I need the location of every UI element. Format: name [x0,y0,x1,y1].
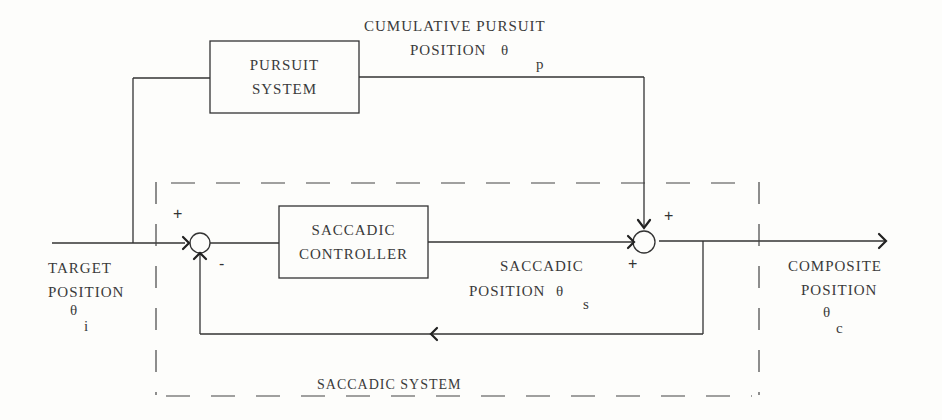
pursuit-system-line1: PURSUIT [210,53,359,77]
theta-p-subscript: p [536,56,544,73]
right-junction-bottom-plus-sign: + [628,255,637,273]
theta-p-symbol: θ [501,42,509,58]
cumulative-pursuit-position: POSITION θ [410,38,509,62]
theta-s-subscript: s [583,296,589,313]
left-summing-junction [190,233,210,253]
target-position-line1: TARGET [48,256,112,280]
saccadic-system-label: SACCADIC SYSTEM [317,373,462,397]
composite-position-line1: COMPOSITE [788,254,882,278]
saccadic-controller-line1: SACCADIC [279,218,428,242]
theta-s-symbol: θ [556,283,564,299]
theta-i-subscript: i [84,318,88,335]
saccadic-position-text: POSITION [469,283,545,299]
right-summing-junction [633,231,655,253]
pursuit-system-label: PURSUIT SYSTEM [210,53,359,101]
cumulative-pursuit-position-text: POSITION [410,42,486,58]
saccadic-position-line2: POSITION θ [469,279,564,303]
saccadic-controller-line2: CONTROLLER [279,242,428,266]
composite-position-line2: POSITION [801,278,877,302]
saccadic-controller-label: SACCADIC CONTROLLER [279,218,428,266]
theta-i-symbol: θ [70,302,77,319]
cumulative-pursuit-label: CUMULATIVE PURSUIT [364,14,546,38]
theta-c-symbol: θ [823,304,830,321]
diagram-lines [0,0,942,420]
block-diagram: PURSUIT SYSTEM SACCADIC CONTROLLER CUMUL… [0,0,942,420]
right-junction-top-plus-sign: + [664,207,673,225]
theta-c-subscript: c [836,320,843,337]
pursuit-system-line2: SYSTEM [210,77,359,101]
left-junction-plus-sign: + [173,205,182,223]
saccadic-position-line1: SACCADIC [500,254,584,278]
left-junction-minus-sign: - [219,255,224,273]
target-position-line2: POSITION [48,280,124,304]
